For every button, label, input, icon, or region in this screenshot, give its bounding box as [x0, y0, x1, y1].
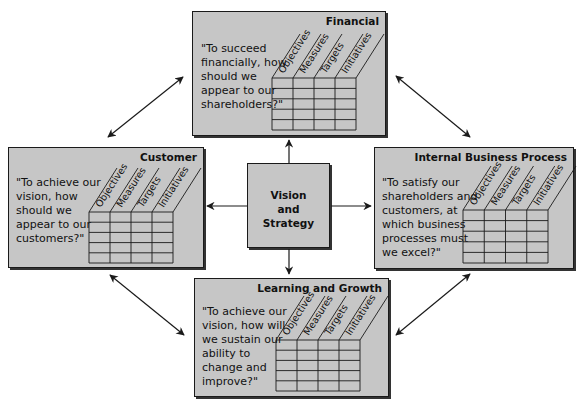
arrow-financial-internal: [396, 76, 470, 137]
center-arrows: [207, 140, 371, 274]
scorecard-tables: ObjectivesMeasuresTargetsInitiativesObje…: [89, 27, 576, 391]
column-header-initiatives: Initiatives: [156, 164, 191, 209]
arrow-internal-learning: [396, 274, 470, 335]
column-header-initiatives: Initiatives: [343, 292, 378, 337]
column-header-initiatives: Initiatives: [531, 162, 566, 207]
arrow-financial-customer: [108, 77, 183, 137]
column-header-initiatives: Initiatives: [339, 30, 374, 75]
diagram-overlay: ObjectivesMeasuresTargetsInitiativesObje…: [0, 0, 587, 404]
arrow-customer-learning: [110, 275, 184, 335]
